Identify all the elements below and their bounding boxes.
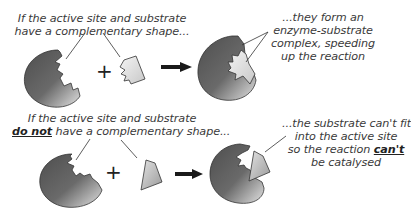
caption-line: enzyme-substrate: [268, 24, 378, 37]
enzyme-substrate-complex: [198, 36, 256, 100]
caption-text: have a complementary shape...: [52, 125, 230, 138]
caption-line: If the active site and substrate: [6, 12, 198, 25]
enzyme-shape-row1: [24, 50, 80, 107]
pointer-line: [242, 32, 268, 45]
pointer-line: [76, 139, 90, 160]
enzyme-shape-row2: [40, 154, 102, 207]
arrow-icon: [175, 169, 203, 179]
caption-line: so the reaction can't: [282, 143, 410, 156]
caption-line: into the active site: [282, 130, 410, 143]
enzyme-non-fitting: [210, 144, 270, 203]
caption-line: complex, speeding: [268, 37, 378, 50]
caption-line: ...they form an: [268, 11, 378, 24]
emphasis-cant: can't: [374, 143, 404, 156]
emphasis-do-not: do not: [12, 125, 52, 138]
caption-text: so the reaction: [288, 143, 374, 156]
caption-line: do not have a complementary shape...: [12, 125, 212, 138]
arrow-icon: [161, 62, 192, 72]
row1-right-caption: ...they form an enzyme-substrate complex…: [268, 11, 378, 63]
caption-line: up the reaction: [268, 50, 378, 63]
plus-sign: +: [96, 59, 113, 83]
caption-line: ...the substrate can't fit: [282, 117, 410, 130]
caption-line: If the active site and substrate: [12, 112, 212, 125]
plus-sign: +: [105, 160, 122, 184]
substrate-shape-row1: [120, 56, 145, 84]
row2-right-caption: ...the substrate can't fit into the acti…: [282, 117, 410, 169]
caption-line: have a complementary shape...: [6, 25, 198, 38]
caption-line: be catalysed: [282, 156, 410, 169]
row2-left-caption: If the active site and substrate do not …: [12, 112, 212, 138]
substrate-shape-row2: [141, 160, 162, 190]
pointer-line: [246, 32, 268, 62]
pointer-line: [121, 140, 137, 158]
row1-left-caption: If the active site and substrate have a …: [6, 12, 198, 38]
